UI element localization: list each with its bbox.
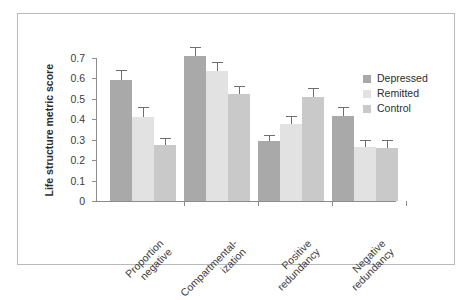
y-tick-mark: 0.4 xyxy=(92,119,96,120)
legend-item-remitted[interactable]: Remitted xyxy=(363,86,451,101)
error-bar-line xyxy=(291,117,292,124)
y-tick-label: 0.3 xyxy=(70,134,85,145)
x-axis-line xyxy=(96,201,396,202)
y-tick-mark: 0.7 xyxy=(92,58,96,59)
error-bar-cap xyxy=(286,116,297,117)
bar-depressed-2 xyxy=(258,141,280,201)
y-tick-label: 0.2 xyxy=(70,155,85,166)
error-bar-cap xyxy=(360,140,371,141)
error-bar-line xyxy=(239,87,240,94)
bar-control-0 xyxy=(154,145,176,201)
legend-item-depressed[interactable]: Depressed xyxy=(363,71,451,86)
error-bar-cap xyxy=(382,140,393,141)
category-label-2: Positiveredundancy xyxy=(266,237,322,293)
bar-remitted-2 xyxy=(280,124,302,201)
legend-swatch-icon xyxy=(363,75,371,83)
y-tick-mark: 0.3 xyxy=(92,140,96,141)
error-bar-line xyxy=(269,136,270,141)
error-bar-line xyxy=(387,141,388,148)
bar-control-3 xyxy=(376,148,398,201)
legend-label: Remitted xyxy=(377,88,419,99)
bar-depressed-0 xyxy=(110,80,132,201)
error-bar-line xyxy=(313,89,314,97)
y-tick-mark: 0.5 xyxy=(92,99,96,100)
bar-control-1 xyxy=(228,94,250,201)
error-bar-cap xyxy=(138,107,149,108)
bar-remitted-3 xyxy=(354,147,376,201)
error-bar-cap xyxy=(190,47,201,48)
x-tick-mark xyxy=(258,201,259,206)
x-tick-mark xyxy=(332,201,333,206)
error-bar-cap xyxy=(160,138,171,139)
y-tick-mark: 0.1 xyxy=(92,181,96,182)
x-tick-mark xyxy=(406,201,407,206)
error-bar-line xyxy=(343,108,344,116)
y-tick-label: 0.4 xyxy=(70,114,85,125)
y-tick-label: 0.1 xyxy=(70,175,85,186)
error-bar-line xyxy=(217,63,218,71)
plot-area: 00.10.20.30.40.50.60.7 Proportionnegativ… xyxy=(96,44,396,201)
error-bar-line xyxy=(365,141,366,147)
category-label-0: Proportionnegative xyxy=(123,237,174,288)
legend-swatch-icon xyxy=(363,90,371,98)
y-axis-line xyxy=(96,58,97,201)
bar-remitted-1 xyxy=(206,71,228,201)
x-tick-mark xyxy=(184,201,185,206)
legend-label: Depressed xyxy=(377,73,428,84)
error-bar-cap xyxy=(338,107,349,108)
error-bar-cap xyxy=(212,62,223,63)
error-bar-line xyxy=(121,71,122,80)
y-tick-mark: 0.2 xyxy=(92,160,96,161)
chart-legend: DepressedRemittedControl xyxy=(363,71,451,116)
error-bar-cap xyxy=(264,135,275,136)
y-tick-label: 0 xyxy=(79,196,85,207)
error-bar-cap xyxy=(116,70,127,71)
legend-swatch-icon xyxy=(363,105,371,113)
y-tick-mark: 0.6 xyxy=(92,78,96,79)
y-tick-mark: 0 xyxy=(92,201,96,202)
error-bar-cap xyxy=(308,88,319,89)
legend-item-control[interactable]: Control xyxy=(363,101,451,116)
bar-control-2 xyxy=(302,97,324,201)
error-bar-cap xyxy=(234,86,245,87)
bar-depressed-3 xyxy=(332,116,354,201)
figure-frame: Life structure metric score 00.10.20.30.… xyxy=(17,13,455,265)
bar-remitted-0 xyxy=(132,117,154,201)
error-bar-line xyxy=(195,48,196,56)
error-bar-line xyxy=(165,139,166,145)
error-bar-line xyxy=(143,108,144,117)
category-label-1: Compartmental-ization xyxy=(178,237,248,300)
category-label-3: Negativeredundancy xyxy=(340,237,396,293)
y-tick-label: 0.7 xyxy=(70,53,85,64)
bar-depressed-1 xyxy=(184,56,206,201)
y-tick-label: 0.5 xyxy=(70,94,85,105)
y-tick-label: 0.6 xyxy=(70,73,85,84)
y-axis-title-text: Life structure metric score xyxy=(44,64,55,196)
legend-label: Control xyxy=(377,103,411,114)
y-axis-title: Life structure metric score xyxy=(42,58,56,202)
